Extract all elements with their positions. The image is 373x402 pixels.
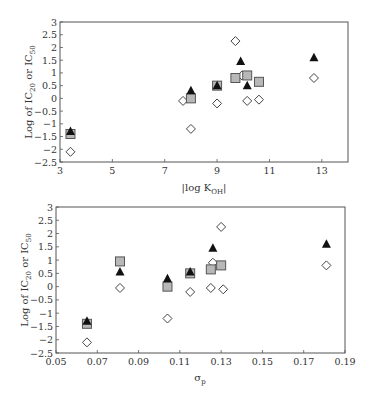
top-diamond-marker xyxy=(231,37,240,46)
bottom-y-tick-label: 2.5 xyxy=(38,215,53,226)
bottom-y-tick-label: 1.5 xyxy=(38,241,53,252)
bottom-y-tick-label: −1.5 xyxy=(30,321,53,332)
bottom-x-tick-label: 0.13 xyxy=(211,356,232,367)
bottom-y-tick-label: −0.5 xyxy=(30,294,53,305)
bottom-triangle-marker xyxy=(163,274,172,283)
bottom-y-tick-label: 3 xyxy=(47,202,53,213)
top-y-tick-label: −0.5 xyxy=(34,106,57,117)
bottom-x-tick-label: 0.09 xyxy=(128,356,149,367)
top-triangle-marker xyxy=(236,56,245,65)
bottom-scatter-plot: −2.5−2−1.5−1−0.500.511.522.530.050.070.0… xyxy=(30,202,356,368)
top-triangle-marker xyxy=(243,81,252,90)
top-plot-frame xyxy=(60,22,348,162)
top-y-tick-label: 3 xyxy=(51,17,57,28)
top-y-tick-label: 0.5 xyxy=(42,80,57,91)
bottom-triangle-marker xyxy=(208,243,217,252)
bottom-square-marker xyxy=(206,265,215,274)
top-y-tick-label: 0 xyxy=(51,93,57,104)
bottom-diamond-marker xyxy=(206,283,215,292)
bottom-x-tick-label: 0.17 xyxy=(293,356,314,367)
top-x-tick-label: 13 xyxy=(316,165,328,176)
top-diamond-marker xyxy=(243,96,252,105)
top-scatter-plot: −2.5−2−1.5−1−0.500.511.522.5335791113 xyxy=(34,17,348,177)
top-y-tick-label: −1.5 xyxy=(34,131,57,142)
top-x-tick-label: 3 xyxy=(57,165,63,176)
bottom-y-tick-label: 2 xyxy=(47,228,53,239)
bottom-diamond-marker xyxy=(115,283,124,292)
top-diamond-marker xyxy=(254,95,263,104)
bottom-triangle-marker xyxy=(115,267,124,276)
bottom-square-marker xyxy=(163,282,172,291)
top-x-axis-label: |log KOH| xyxy=(182,182,227,196)
top-diamond-marker xyxy=(66,147,75,156)
bottom-triangle-marker xyxy=(322,239,331,248)
bottom-square-marker xyxy=(217,261,226,270)
top-y-tick-label: 2.5 xyxy=(42,29,57,40)
bottom-diamond-marker xyxy=(217,222,226,231)
bottom-diamond-marker xyxy=(186,287,195,296)
top-diamond-marker xyxy=(213,99,222,108)
bottom-y-tick-label: −1 xyxy=(39,308,53,319)
bottom-x-axis-label: σp xyxy=(194,372,206,386)
bottom-square-marker xyxy=(115,257,124,266)
top-x-tick-label: 5 xyxy=(109,165,115,176)
figure: −2.5−2−1.5−1−0.500.511.522.5335791113 −2… xyxy=(0,0,373,402)
top-triangle-marker xyxy=(186,86,195,95)
top-diamond-marker xyxy=(186,124,195,133)
bottom-diamond-marker xyxy=(322,261,331,270)
bottom-diamond-marker xyxy=(219,285,228,294)
bottom-y-tick-label: 0 xyxy=(47,281,53,292)
bottom-diamond-marker xyxy=(82,338,91,347)
top-y-axis-label: Log of IC20 or IC50 xyxy=(23,45,37,138)
top-y-tick-label: 1.5 xyxy=(42,55,57,66)
top-square-marker xyxy=(254,77,263,86)
bottom-x-tick-label: 0.05 xyxy=(45,356,66,367)
bottom-x-tick-label: 0.11 xyxy=(169,356,190,367)
bottom-y-axis-label: Log of IC20 or IC50 xyxy=(19,233,33,326)
bottom-x-tick-label: 0.15 xyxy=(252,356,273,367)
bottom-y-tick-label: 0.5 xyxy=(38,268,53,279)
top-y-tick-label: 1 xyxy=(51,67,57,78)
top-y-tick-label: −2.5 xyxy=(34,157,57,168)
top-y-tick-label: −1 xyxy=(43,118,57,129)
bottom-x-tick-label: 0.19 xyxy=(334,356,355,367)
top-x-tick-label: 9 xyxy=(214,165,220,176)
bottom-y-tick-label: −2 xyxy=(39,334,53,345)
bottom-y-tick-label: 1 xyxy=(47,255,53,266)
top-square-marker xyxy=(243,71,252,80)
top-square-marker xyxy=(186,94,195,103)
top-x-tick-label: 11 xyxy=(263,165,275,176)
bottom-x-tick-label: 0.07 xyxy=(87,356,108,367)
top-square-marker xyxy=(231,74,240,83)
top-diamond-marker xyxy=(309,74,318,83)
top-y-tick-label: −2 xyxy=(43,144,57,155)
top-y-tick-label: 2 xyxy=(51,42,57,53)
top-triangle-marker xyxy=(309,53,318,62)
top-x-tick-label: 7 xyxy=(162,165,168,176)
bottom-diamond-marker xyxy=(163,314,172,323)
bottom-plot-frame xyxy=(56,207,345,353)
